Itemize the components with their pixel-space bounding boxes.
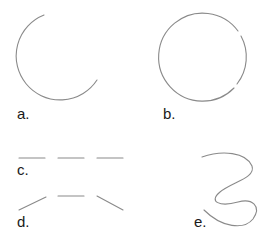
panel-a-label: a. xyxy=(17,106,30,121)
figure-stage: a. b. c. d. e. xyxy=(0,0,266,238)
panel-e-curve xyxy=(202,153,256,226)
panel-b-circle xyxy=(159,13,247,101)
panel-e-label: e. xyxy=(194,214,207,229)
figure-canvas xyxy=(0,0,266,238)
panel-c-label: c. xyxy=(17,162,29,177)
panel-d-dashes xyxy=(19,196,123,210)
panel-a-arc xyxy=(16,15,97,100)
panel-b-label: b. xyxy=(163,106,176,121)
panel-d-label: d. xyxy=(17,214,30,229)
